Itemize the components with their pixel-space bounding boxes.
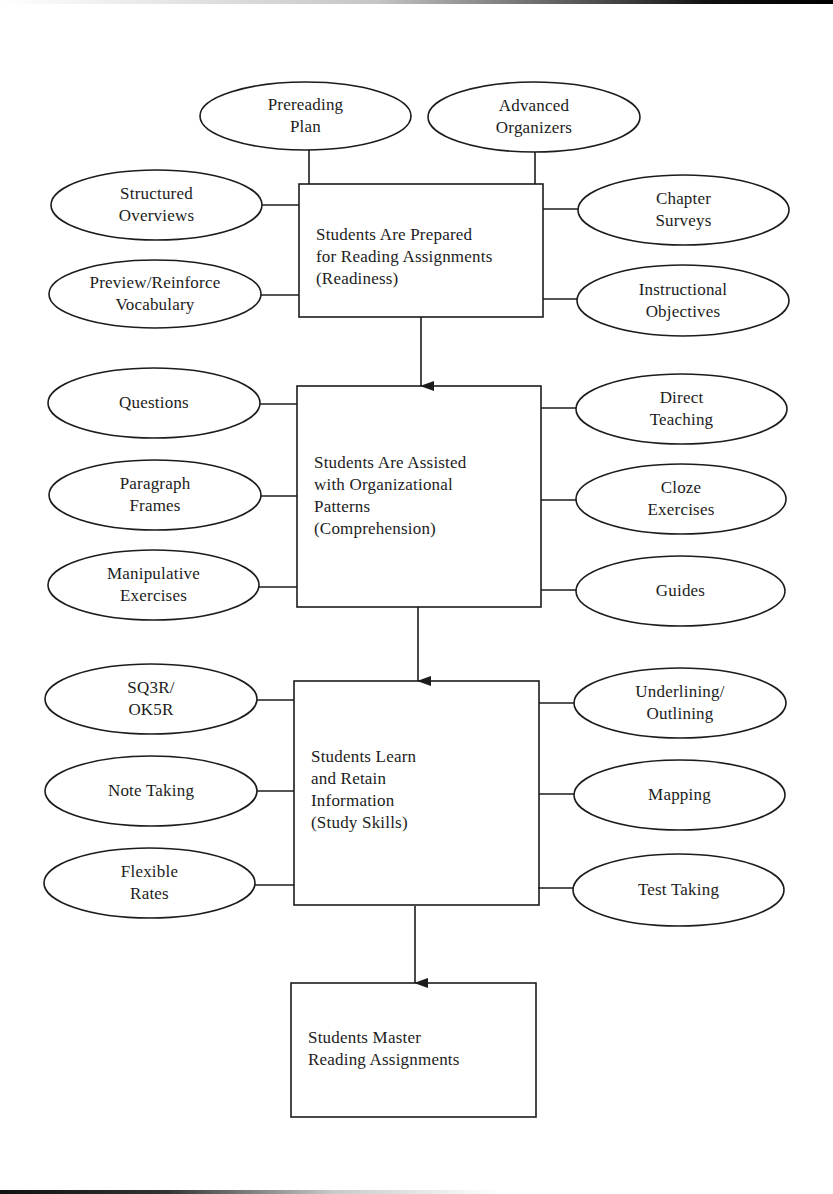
oval-questions-label: Questions (48, 368, 260, 438)
box-text-line: (Study Skills) (311, 812, 416, 834)
box-text-line: Information (311, 790, 416, 812)
box-mastery-label: Students Master Reading Assignments (308, 1027, 533, 1071)
oval-flexible-rates-label: FlexibleRates (44, 848, 255, 918)
oval-sq3r-ok5r-label: SQ3R/OK5R (45, 664, 257, 734)
box-text-line: (Readiness) (316, 268, 492, 290)
oval-direct-teaching-label: DirectTeaching (576, 374, 787, 444)
box-text-line: Students Are Prepared (316, 224, 492, 246)
oval-manipulative-exercises-label: ManipulativeExercises (48, 550, 259, 620)
box-text-line: Students Are Assisted (314, 452, 467, 474)
oval-guides-label: Guides (576, 556, 785, 626)
box-text-line: and Retain (311, 768, 416, 790)
oval-structured-overviews-label: StructuredOverviews (51, 170, 262, 240)
oval-cloze-exercises-label: ClozeExercises (576, 464, 786, 534)
box-text-line: for Reading Assignments (316, 246, 492, 268)
oval-test-taking-label: Test Taking (573, 854, 784, 926)
oval-underlining-outlining-label: Underlining/Outlining (574, 668, 786, 738)
oval-paragraph-frames-label: ParagraphFrames (49, 460, 261, 530)
box-text-line: Students Master (308, 1027, 460, 1049)
box-text-line: with Organizational (314, 474, 467, 496)
oval-prereading-plan-label: PrereadingPlan (200, 82, 411, 150)
oval-preview-reinforce-vocabulary-label: Preview/ReinforceVocabulary (49, 260, 261, 328)
oval-chapter-surveys-label: ChapterSurveys (578, 175, 789, 245)
oval-mapping-label: Mapping (574, 760, 785, 830)
box-comprehension-label: Students Are Assisted with Organizationa… (314, 452, 539, 540)
oval-instructional-objectives-label: InstructionalObjectives (577, 265, 789, 336)
box-study-skills-label: Students Learn and Retain Information (S… (311, 746, 536, 834)
oval-note-taking-label: Note Taking (45, 756, 257, 826)
box-text-line: Students Learn (311, 746, 416, 768)
oval-advanced-organizers-label: AdvancedOrganizers (428, 82, 640, 152)
box-readiness-label: Students Are Prepared for Reading Assign… (316, 224, 541, 290)
box-text-line: Reading Assignments (308, 1049, 460, 1071)
box-text-line: (Comprehension) (314, 518, 467, 540)
box-text-line: Patterns (314, 496, 467, 518)
